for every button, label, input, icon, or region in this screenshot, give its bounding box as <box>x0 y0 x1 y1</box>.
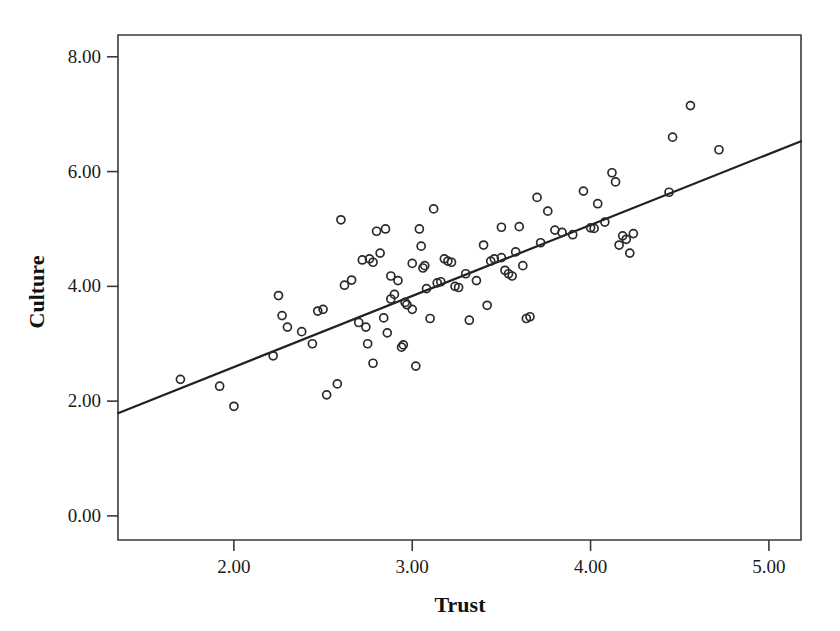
data-point <box>314 307 322 315</box>
data-point <box>472 277 480 285</box>
data-point <box>497 223 505 231</box>
x-axis-tick-labels: 2.003.004.005.00 <box>217 556 785 577</box>
data-point <box>269 352 277 360</box>
data-point <box>333 380 341 388</box>
data-point <box>408 259 416 267</box>
plot-canvas: 0.002.004.006.008.00 2.003.004.005.00 Cu… <box>0 0 840 631</box>
data-point <box>298 328 306 336</box>
data-point <box>381 225 389 233</box>
data-point <box>715 146 723 154</box>
data-point <box>403 301 411 309</box>
data-point <box>230 402 238 410</box>
x-axis-ticks <box>234 540 769 551</box>
data-point <box>216 382 224 390</box>
data-point <box>608 169 616 177</box>
data-point <box>415 225 423 233</box>
data-point <box>394 277 402 285</box>
data-point <box>408 305 416 313</box>
regression-line <box>118 141 801 413</box>
data-point <box>274 292 282 300</box>
data-point <box>323 391 331 399</box>
data-point <box>594 200 602 208</box>
data-point <box>533 193 541 201</box>
data-point <box>337 216 345 224</box>
y-axis-title: Culture <box>24 255 49 328</box>
data-point <box>362 323 370 331</box>
x-tick-label: 4.00 <box>574 556 607 577</box>
x-tick-label: 3.00 <box>396 556 429 577</box>
data-point <box>629 230 637 238</box>
x-tick-label: 5.00 <box>752 556 785 577</box>
data-point <box>465 316 473 324</box>
y-tick-label: 4.00 <box>68 275 101 296</box>
data-point <box>348 276 356 284</box>
data-point <box>480 241 488 249</box>
data-point <box>380 314 388 322</box>
data-point <box>669 133 677 141</box>
data-point <box>308 340 316 348</box>
y-axis-ticks <box>107 57 118 516</box>
data-point <box>283 323 291 331</box>
data-point <box>426 314 434 322</box>
data-point <box>399 341 407 349</box>
data-point <box>421 262 429 270</box>
data-point <box>373 227 381 235</box>
data-point <box>369 359 377 367</box>
data-point <box>364 340 372 348</box>
data-point <box>483 301 491 309</box>
data-points-group <box>176 102 723 411</box>
data-point <box>519 262 527 270</box>
scatter-plot-figure: 0.002.004.006.008.00 2.003.004.005.00 Cu… <box>0 0 840 631</box>
data-point <box>579 187 587 195</box>
data-point <box>376 249 384 257</box>
y-tick-label: 8.00 <box>68 46 101 67</box>
data-point <box>544 207 552 215</box>
data-point <box>430 205 438 213</box>
data-point <box>615 241 623 249</box>
data-point <box>383 329 391 337</box>
data-point <box>278 312 286 320</box>
y-tick-label: 0.00 <box>68 505 101 526</box>
data-point <box>417 242 425 250</box>
data-point <box>686 102 694 110</box>
data-point <box>340 281 348 289</box>
x-axis-title: Trust <box>435 592 487 617</box>
y-tick-label: 6.00 <box>68 161 101 182</box>
x-tick-label: 2.00 <box>217 556 250 577</box>
data-point <box>626 249 634 257</box>
data-point <box>319 305 327 313</box>
y-tick-label: 2.00 <box>68 390 101 411</box>
data-point <box>176 375 184 383</box>
data-point <box>515 223 523 231</box>
data-point <box>612 178 620 186</box>
data-point <box>412 362 420 370</box>
y-axis-tick-labels: 0.002.004.006.008.00 <box>68 46 101 526</box>
